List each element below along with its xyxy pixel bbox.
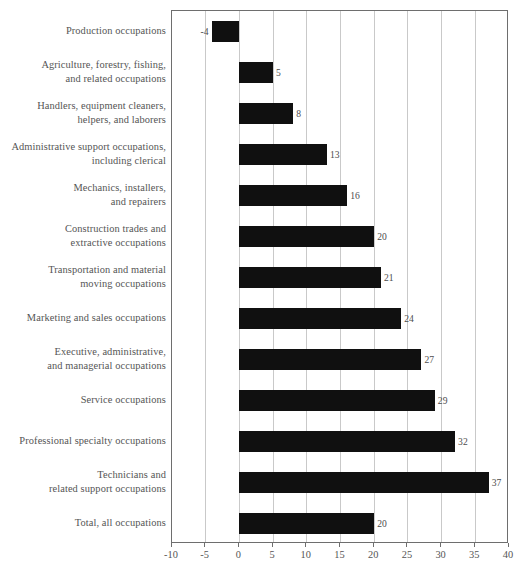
x-tick-40	[508, 543, 509, 547]
gridline-x-35	[475, 11, 476, 542]
bar-value-label: 8	[296, 103, 301, 124]
x-tick-10	[305, 543, 306, 547]
bar-value-label: 20	[377, 226, 387, 247]
category-label: Marketing and sales occupations	[0, 311, 166, 324]
bar-value-label: 20	[377, 513, 387, 534]
x-tick-label--10: -10	[164, 548, 178, 561]
category-label: Construction trades and extractive occup…	[0, 222, 166, 248]
category-label: Technicians and related support occupati…	[0, 468, 166, 494]
bar-value-label: -4	[200, 21, 208, 42]
category-label: Total, all occupations	[0, 516, 166, 529]
bar	[239, 472, 488, 493]
x-tick-0	[238, 543, 239, 547]
category-label: Professional specialty occupations	[0, 434, 166, 447]
x-tick-label-25: 25	[402, 548, 412, 561]
bar-value-label: 13	[330, 144, 340, 165]
category-label: Mechanics, installers, and repairers	[0, 181, 166, 207]
x-tick-label-0: 0	[236, 548, 241, 561]
bar	[239, 62, 273, 83]
x-axis: -10-50510152025303540	[171, 543, 508, 573]
category-label: Service occupations	[0, 393, 166, 406]
bar-value-label: 5	[276, 62, 281, 83]
category-label: Handlers, equipment cleaners, helpers, a…	[0, 99, 166, 125]
x-tick-label-40: 40	[503, 548, 513, 561]
x-tick-label-10: 10	[301, 548, 311, 561]
category-label: Agriculture, forestry, fishing, and rela…	[0, 58, 166, 84]
bar	[239, 431, 455, 452]
bar	[239, 103, 293, 124]
x-tick-label-15: 15	[334, 548, 344, 561]
category-label: Administrative support occupations, incl…	[0, 140, 166, 166]
gridline-x--5	[205, 11, 206, 542]
x-tick-15	[339, 543, 340, 547]
x-tick-label--5: -5	[200, 548, 209, 561]
bar-value-label: 32	[458, 431, 468, 452]
bar-value-label: 27	[424, 349, 434, 370]
bar	[239, 185, 347, 206]
x-tick-20	[373, 543, 374, 547]
x-tick-label-35: 35	[469, 548, 479, 561]
bar-value-label: 24	[404, 308, 414, 329]
bar	[239, 513, 374, 534]
gridline-x-25	[407, 11, 408, 542]
bar	[239, 226, 374, 247]
bar	[239, 390, 434, 411]
bar-value-label: 21	[384, 267, 394, 288]
plot-area: -45813162021242729323720	[171, 10, 508, 543]
category-axis-labels: Production occupationsAgriculture, fores…	[0, 0, 166, 573]
x-tick-label-5: 5	[269, 548, 274, 561]
x-tick-label-30: 30	[435, 548, 445, 561]
category-label: Transportation and material moving occup…	[0, 263, 166, 289]
bar-chart: Production occupationsAgriculture, fores…	[0, 0, 518, 573]
bar	[239, 349, 421, 370]
bar-value-label: 16	[350, 185, 360, 206]
x-tick-5	[272, 543, 273, 547]
bar	[239, 308, 401, 329]
bar	[212, 21, 239, 42]
bar-value-label: 29	[438, 390, 448, 411]
x-tick-30	[440, 543, 441, 547]
category-label: Executive, administrative, and manageria…	[0, 345, 166, 371]
x-tick-label-20: 20	[368, 548, 378, 561]
x-tick-35	[474, 543, 475, 547]
bar	[239, 144, 327, 165]
x-tick--5	[204, 543, 205, 547]
bar-value-label: 37	[492, 472, 502, 493]
x-tick--10	[171, 543, 172, 547]
x-tick-25	[406, 543, 407, 547]
category-label: Production occupations	[0, 24, 166, 37]
gridline-x-30	[441, 11, 442, 542]
bar	[239, 267, 381, 288]
